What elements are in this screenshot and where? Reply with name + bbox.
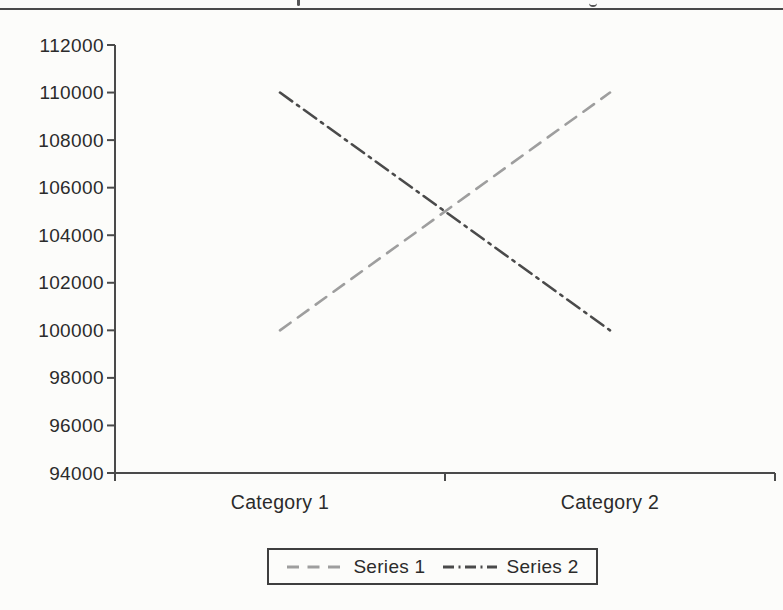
- legend-label-series-2: Series 2: [507, 556, 579, 578]
- legend-item-series-2: Series 2: [442, 556, 579, 578]
- y-axis-tick-label: 96000: [49, 415, 104, 436]
- series-1-dashed-sample-icon: [286, 564, 344, 570]
- y-axis-tick-label: 94000: [49, 463, 104, 484]
- y-axis-tick-label: 112000: [40, 35, 104, 56]
- y-axis-tick-label: 104000: [38, 225, 104, 246]
- y-axis-tick-label: 98000: [49, 367, 104, 388]
- legend-item-series-1: Series 1: [286, 556, 425, 578]
- line-chart: 9400096000980001000001020001040001060001…: [0, 0, 783, 540]
- y-axis-tick-label: 100000: [38, 320, 104, 341]
- y-axis-tick-label: 110000: [40, 82, 104, 103]
- legend-label-series-1: Series 1: [353, 556, 425, 578]
- y-axis-tick-label: 106000: [38, 177, 104, 198]
- series-2-dash-dot-sample-icon: [442, 564, 498, 570]
- y-axis-tick-label: 108000: [38, 130, 104, 151]
- chart-legend: Series 1 Series 2: [267, 548, 598, 585]
- y-axis-tick-label: 102000: [38, 272, 104, 293]
- scanned-page: 9400096000980001000001020001040001060001…: [0, 0, 783, 610]
- x-axis-category-label: Category 2: [561, 491, 659, 513]
- x-axis-category-label: Category 1: [231, 491, 329, 513]
